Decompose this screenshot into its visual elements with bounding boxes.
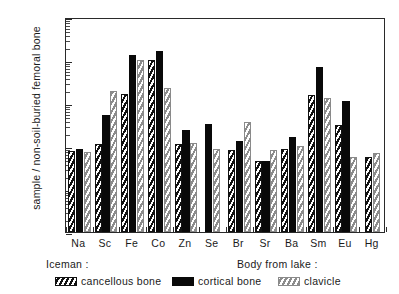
bar-sm-cortical-bone [316,67,323,232]
y-tick-minor [66,112,70,113]
y-tick-minor [66,127,70,128]
x-tick [119,227,120,232]
bar-sr-cancellous-bone [255,161,262,232]
bar-co-cancellous-bone [148,60,155,232]
bar-fe-cancellous-bone [121,94,128,232]
y-tick-major [66,62,72,63]
y-tick-major [66,105,72,106]
bar-hg-cancellous-bone [365,157,372,232]
y-tick-minor [66,84,70,85]
bar-eu-clavicle [350,157,357,232]
bar-co-clavicle [164,88,171,232]
bar-zn-cortical-bone [182,130,189,232]
bar-co-cortical-bone [156,51,163,232]
x-tick [66,227,67,232]
bar-se-clavicle [213,149,220,232]
y-axis-title: sample / non-soil-buried femoral bone [30,3,42,233]
chart-figure: sample / non-soil-buried femoral bone 10… [0,0,399,294]
y-tick-minor [66,109,70,110]
legend-heading-body-from-lake: Body from lake : [237,258,318,270]
legend-heading-iceman: Iceman : [46,258,89,270]
bar-sm-clavicle [324,98,331,232]
bar-br-cancellous-bone [228,150,235,232]
x-tick [306,227,307,232]
legend-swatch-clavicle [278,277,300,286]
bar-fe-clavicle [137,60,144,232]
y-tick-minor [66,79,70,80]
y-tick-minor [66,49,70,50]
legend-entry-cortical-bone: cortical bone [172,275,261,287]
y-tick-minor [66,64,70,65]
bar-sc-cortical-bone [102,115,109,232]
x-tick [173,227,174,232]
bar-se-cortical-bone [205,124,212,232]
x-tick [253,227,254,232]
y-tick-minor [66,122,70,123]
legend-label-cancellous-bone: cancellous bone [81,275,161,287]
y-tick-minor [66,118,70,119]
x-tick [386,227,387,232]
bar-eu-cancellous-bone [335,125,342,232]
bar-eu-cortical-bone [342,101,349,232]
y-tick-major [66,234,72,235]
x-tick [359,227,360,232]
y-tick-minor [66,26,70,27]
bar-br-clavicle [244,122,251,232]
bar-sm-cancellous-bone [308,95,315,232]
legend-entry-clavicle: clavicle [278,275,341,287]
y-tick-minor [66,21,70,22]
y-tick-minor [66,66,70,67]
x-tick [199,227,200,232]
bar-ba-cancellous-bone [281,149,288,232]
y-tick-major [66,148,72,149]
y-tick-minor [66,75,70,76]
bar-na-clavicle [84,152,91,232]
bar-hg-clavicle [373,153,380,232]
y-tick-minor [66,41,70,42]
x-tick [226,227,227,232]
bar-sc-clavicle [110,91,117,232]
bar-ba-cortical-bone [289,137,296,232]
y-tick-minor [66,32,70,33]
y-tick-minor [66,107,70,108]
chart-legend: Iceman : Body from lake : cancellous bon… [0,252,399,294]
bar-fe-cortical-bone [129,55,136,232]
x-tick [93,227,94,232]
y-tick-minor [66,29,70,30]
bar-sr-clavicle [270,150,277,232]
bar-sr-cortical-bone [262,161,269,232]
y-tick-minor [66,92,70,93]
bar-zn-clavicle [190,143,197,232]
x-tick [146,227,147,232]
y-tick-minor [66,115,70,116]
bar-na-cortical-bone [76,149,83,232]
bar-na-cancellous-bone [68,151,75,232]
legend-swatch-cancellous-bone [55,277,77,286]
legend-swatch-cortical-bone [172,277,194,286]
y-tick-minor [66,23,70,24]
legend-label-clavicle: clavicle [304,275,341,287]
y-tick-major [66,19,72,20]
x-tick-label-hg: Hg [352,237,392,249]
y-tick-minor [66,135,70,136]
y-tick-minor [66,69,70,70]
bar-zn-cancellous-bone [175,144,182,232]
y-tick-minor [66,36,70,37]
plot-area: 10001001010.10.01 [65,18,385,233]
x-tick [279,227,280,232]
legend-label-cortical-bone: cortical bone [198,275,261,287]
bar-sc-cancellous-bone [95,144,102,232]
legend-entry-cancellous-bone: cancellous bone [55,275,161,287]
bar-br-cortical-bone [236,141,243,232]
y-tick-minor [66,72,70,73]
x-tick [333,227,334,232]
bar-ba-clavicle [297,146,304,232]
